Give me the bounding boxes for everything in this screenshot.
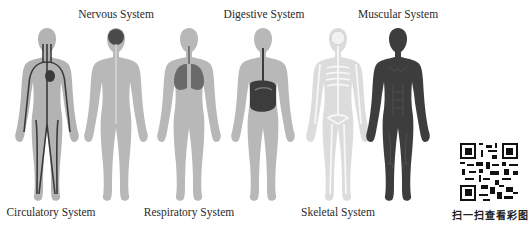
- label-respiratory-system: Respiratory System: [144, 206, 234, 218]
- figure-nervous-system: [81, 24, 151, 204]
- label-skeletal-system: Skeletal System: [301, 206, 375, 218]
- heart-icon: [45, 70, 55, 82]
- skeleton-icon: [315, 31, 361, 194]
- qr-code-icon[interactable]: [459, 143, 519, 201]
- figure-digestive-system: [228, 24, 298, 204]
- label-digestive-system: Digestive System: [224, 8, 305, 20]
- label-nervous-system: Nervous System: [78, 8, 154, 20]
- figure-muscular-system: [363, 24, 433, 204]
- stomach-intestines-icon: [250, 80, 276, 111]
- figure-circulatory-system: [12, 24, 82, 204]
- brain-icon: [108, 29, 124, 45]
- qr-caption: 扫一扫查看彩图: [452, 207, 529, 222]
- label-muscular-system: Muscular System: [358, 8, 438, 20]
- figure-respiratory-system: [154, 24, 224, 204]
- label-circulatory-system: Circulatory System: [6, 206, 95, 218]
